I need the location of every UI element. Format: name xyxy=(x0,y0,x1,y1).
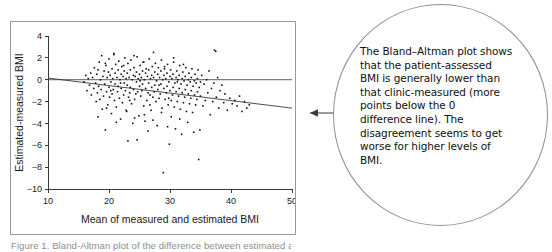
data-point xyxy=(137,78,139,80)
data-point xyxy=(145,68,147,70)
data-point xyxy=(95,82,97,84)
data-point xyxy=(108,71,110,73)
data-point xyxy=(155,63,157,65)
figure-caption: Figure 1. Bland-Altman plot of the diffe… xyxy=(11,240,291,251)
data-point xyxy=(121,66,123,68)
data-point xyxy=(149,104,151,106)
bland-altman-scatter-chart: 420−2−4−6−8−101020304050Mean of measured… xyxy=(11,22,295,234)
data-point xyxy=(154,71,156,73)
data-point xyxy=(100,89,102,91)
data-point xyxy=(145,88,147,90)
data-point xyxy=(236,105,238,107)
data-point xyxy=(106,107,108,109)
data-point xyxy=(130,59,132,61)
data-point xyxy=(127,140,129,142)
data-point xyxy=(134,117,136,119)
x-tick-label: 10 xyxy=(43,196,53,206)
data-point xyxy=(159,77,161,79)
data-point xyxy=(124,57,126,59)
data-point xyxy=(143,61,145,63)
data-point xyxy=(211,88,213,90)
data-point xyxy=(143,105,145,107)
data-point xyxy=(179,118,181,120)
data-point xyxy=(175,128,177,130)
data-point xyxy=(179,65,181,67)
data-point xyxy=(191,77,193,79)
data-point xyxy=(134,76,136,78)
data-point xyxy=(208,70,210,72)
data-point xyxy=(93,88,95,90)
data-point xyxy=(127,72,129,74)
data-point xyxy=(92,77,94,79)
data-point xyxy=(246,107,248,109)
data-point xyxy=(180,108,182,110)
data-point xyxy=(216,96,218,98)
data-point xyxy=(98,61,100,63)
data-point xyxy=(110,81,112,83)
data-point xyxy=(177,79,179,81)
x-tick-label: 20 xyxy=(104,196,114,206)
data-point xyxy=(133,67,135,69)
data-point xyxy=(195,82,197,84)
data-point xyxy=(87,78,89,80)
data-point xyxy=(106,91,108,93)
data-point xyxy=(191,90,193,92)
data-point xyxy=(144,114,146,116)
callout-text: The Bland–Altman plot shows that the pat… xyxy=(360,45,540,167)
data-point xyxy=(169,90,171,92)
data-point xyxy=(181,134,183,136)
data-point xyxy=(116,122,118,124)
data-point xyxy=(188,79,190,81)
data-point xyxy=(205,100,207,102)
data-point xyxy=(161,112,163,114)
data-point xyxy=(119,79,121,81)
data-point xyxy=(122,76,124,78)
x-tick-label: 50 xyxy=(287,196,295,206)
data-point xyxy=(148,58,150,60)
callout-line: The Bland–Altman plot shows xyxy=(360,45,540,59)
data-point xyxy=(105,63,107,65)
data-point xyxy=(164,66,166,68)
data-point xyxy=(147,130,149,132)
data-point xyxy=(183,64,185,66)
x-axis-label: Mean of measured and estimated BMI xyxy=(81,213,259,225)
data-point xyxy=(181,78,183,80)
data-point xyxy=(133,89,135,91)
data-point xyxy=(217,77,219,79)
data-point xyxy=(171,78,173,80)
data-point xyxy=(110,90,112,92)
data-point xyxy=(174,82,176,84)
data-point xyxy=(107,104,109,106)
data-point xyxy=(125,90,127,92)
data-point xyxy=(166,92,168,94)
data-point xyxy=(209,114,211,116)
data-point xyxy=(127,84,129,86)
data-point xyxy=(227,110,229,112)
scatter-points xyxy=(83,49,250,173)
data-point xyxy=(224,93,226,95)
data-point xyxy=(149,94,151,96)
data-point xyxy=(152,96,154,98)
data-point xyxy=(111,113,113,115)
data-point xyxy=(166,72,168,74)
data-point xyxy=(129,92,131,94)
data-point xyxy=(172,87,174,89)
data-point xyxy=(120,73,122,75)
callout-line: disagreement seems to get xyxy=(360,127,540,141)
data-point xyxy=(152,66,154,68)
data-point xyxy=(140,95,142,97)
data-point xyxy=(111,68,113,70)
data-point xyxy=(169,76,171,78)
data-point xyxy=(158,84,160,86)
data-point xyxy=(89,84,91,86)
y-axis-label: Estimated-measured BMI xyxy=(13,53,25,171)
data-point xyxy=(142,70,144,72)
data-point xyxy=(180,83,182,85)
figure-panel: 420−2−4−6−8−101020304050Mean of measured… xyxy=(10,21,296,235)
data-point xyxy=(141,90,143,92)
data-point xyxy=(117,69,119,71)
data-point xyxy=(106,77,108,79)
data-point xyxy=(119,97,121,99)
data-point xyxy=(122,102,124,104)
data-point xyxy=(158,67,160,69)
